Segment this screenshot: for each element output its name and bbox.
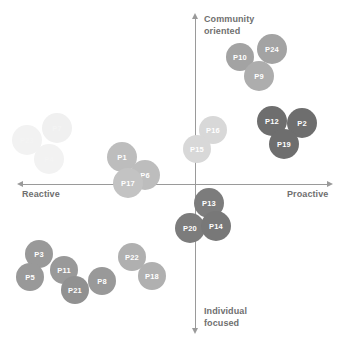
data-point-label: P15 bbox=[190, 145, 204, 154]
data-point-label: P17 bbox=[121, 179, 135, 188]
data-point-p4[interactable]: P4 bbox=[34, 144, 64, 174]
data-point-label: P14 bbox=[209, 222, 223, 231]
data-point-p24[interactable]: P24 bbox=[257, 34, 287, 64]
data-point-p17[interactable]: P17 bbox=[113, 168, 143, 198]
quadrant-scatter-chart: Community oriented Individual focused Re… bbox=[0, 0, 344, 348]
horizontal-axis bbox=[22, 184, 328, 185]
vertical-axis bbox=[195, 18, 196, 330]
data-point-p5[interactable]: P5 bbox=[16, 263, 44, 291]
data-point-p21[interactable]: P21 bbox=[61, 276, 89, 304]
data-point-label: P10 bbox=[233, 53, 247, 62]
data-point-label: P2 bbox=[297, 119, 307, 128]
axis-arrow-left-icon bbox=[17, 181, 23, 187]
data-point-label: P5 bbox=[25, 273, 35, 282]
data-point-label: P12 bbox=[265, 117, 279, 126]
data-point-label: P3 bbox=[34, 250, 44, 259]
data-point-label: P13 bbox=[202, 199, 216, 208]
data-point-p14[interactable]: P14 bbox=[201, 211, 231, 241]
axis-label-right: Proactive bbox=[287, 189, 328, 201]
data-point-p9[interactable]: P9 bbox=[244, 61, 274, 91]
data-point-label: P7 bbox=[52, 124, 62, 133]
axis-label-left: Reactive bbox=[22, 189, 60, 201]
data-point-label: P4 bbox=[44, 155, 54, 164]
data-point-label: P8 bbox=[97, 277, 107, 286]
data-point-label: P23 bbox=[20, 136, 34, 145]
axis-label-top: Community oriented bbox=[204, 14, 254, 37]
data-point-label: P19 bbox=[277, 140, 291, 149]
data-point-p18[interactable]: P18 bbox=[138, 262, 166, 290]
axis-arrow-right-icon bbox=[327, 181, 333, 187]
axis-arrow-down-icon bbox=[192, 328, 198, 334]
data-point-label: P22 bbox=[125, 253, 139, 262]
axis-label-bottom: Individual focused bbox=[204, 306, 247, 329]
data-point-label: P1 bbox=[117, 153, 127, 162]
data-point-label: P21 bbox=[68, 286, 82, 295]
data-point-label: P18 bbox=[145, 272, 159, 281]
data-point-label: P11 bbox=[57, 266, 71, 275]
axis-arrow-up-icon bbox=[192, 13, 198, 19]
data-point-label: P9 bbox=[254, 72, 264, 81]
data-point-label: P16 bbox=[206, 126, 220, 135]
data-point-p7[interactable]: P7 bbox=[42, 113, 72, 143]
data-point-p15[interactable]: P15 bbox=[183, 135, 211, 163]
data-point-p8[interactable]: P8 bbox=[88, 267, 116, 295]
data-point-label: P24 bbox=[265, 45, 279, 54]
data-point-label: P20 bbox=[183, 224, 197, 233]
data-point-p19[interactable]: P19 bbox=[269, 129, 299, 159]
